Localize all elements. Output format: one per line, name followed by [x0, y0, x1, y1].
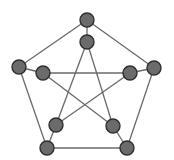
- node-inner-right: [123, 66, 137, 80]
- node-inner-left: [36, 66, 50, 80]
- node-inner-bottom-right: [106, 119, 120, 133]
- node-outer-left: [12, 60, 26, 74]
- node-inner-top: [80, 35, 94, 49]
- node-outer-bottom-right: [120, 141, 134, 155]
- node-inner-bottom-left: [49, 118, 63, 132]
- petersen-graph-diagram: [0, 0, 174, 160]
- node-outer-bottom-left: [40, 141, 54, 155]
- node-outer-right: [147, 61, 161, 75]
- node-outer-top: [80, 13, 94, 27]
